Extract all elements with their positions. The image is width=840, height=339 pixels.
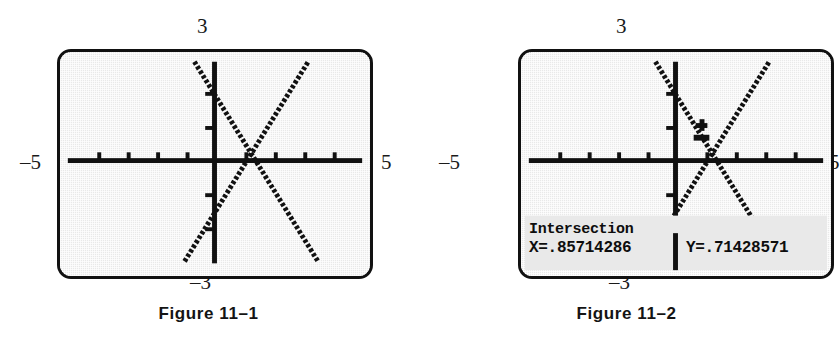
axis-label-right-fig1: 5 [381,152,392,173]
x-tick [794,152,798,159]
trace-cursor-icon-fig2 [694,119,710,140]
plot-svg-fig1 [60,52,370,276]
x-tick [156,152,160,159]
x-tick [303,152,307,159]
figure-11-1: 3 –5 5 –3 [0,0,417,339]
y-tick [666,126,674,130]
axis-label-top-fig1: 3 [197,16,208,37]
readout-x-value: X=.85714286 [529,240,631,256]
screen-plot-area-fig2: Intersection X=.85714286 Y=.71428571 [521,52,831,276]
x-tick [558,152,562,159]
calculator-screen-fig2: Intersection X=.85714286 Y=.71428571 [518,49,834,279]
x-tick [97,152,101,159]
x-tick [617,152,621,159]
readout-y-value: Y=.71428571 [686,240,788,256]
figure-caption-1: Figure 11–1 [0,304,417,324]
axis-label-left-fig2: –5 [439,152,460,173]
figure-caption-2: Figure 11–2 [418,304,835,324]
axis-label-top-fig2: 3 [616,16,627,37]
calculator-screen-fig1 [57,49,373,279]
x-tick [127,152,131,159]
y-tick [205,126,213,130]
x-tick [186,152,190,159]
figure-11-2: 3 –5 5 –3 [418,0,835,339]
y-tick [666,193,674,197]
x-tick [647,152,651,159]
readout-status-label: Intersection [529,222,633,237]
x-tick [274,152,278,159]
x-tick [333,152,337,159]
x-tick [735,152,739,159]
x-tick [764,152,768,159]
screen-plot-area-fig1 [60,52,370,276]
readout-divider-fig2 [673,233,678,270]
y-tick [205,193,213,197]
axis-label-left-fig1: –5 [20,152,41,173]
x-tick [588,152,592,159]
